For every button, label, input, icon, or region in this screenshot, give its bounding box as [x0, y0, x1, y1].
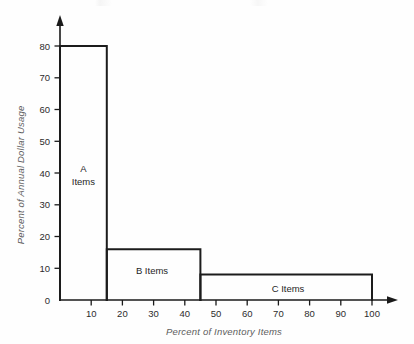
y-axis-tick-labels: 80 70 60 50 40 30 20 10 0 — [39, 41, 50, 306]
step-bars — [60, 46, 372, 300]
abc-inventory-step-chart: 80 70 60 50 40 30 20 10 0 10 20 — [0, 0, 414, 344]
x-tick-label-70: 70 — [273, 308, 284, 319]
x-axis-tick-labels: 10 20 30 40 50 60 70 80 90 100 — [86, 308, 380, 319]
x-axis-title: Percent of Inventory Items — [166, 326, 282, 337]
x-tick-label-100: 100 — [364, 308, 380, 319]
x-axis-ticks — [91, 300, 372, 306]
bar-label-a-items-line2: Items — [72, 176, 95, 187]
bar-label-c-items: C Items — [272, 283, 305, 294]
x-tick-label-90: 90 — [336, 308, 347, 319]
x-tick-label-60: 60 — [242, 308, 253, 319]
x-tick-label-80: 80 — [304, 308, 315, 319]
y-tick-label-50: 50 — [39, 136, 50, 147]
y-tick-label-0: 0 — [45, 295, 50, 306]
x-axis — [60, 296, 398, 303]
y-tick-label-80: 80 — [39, 41, 50, 52]
bar-label-b-items: B Items — [136, 265, 168, 276]
x-tick-label-20: 20 — [117, 308, 128, 319]
y-tick-label-20: 20 — [39, 231, 50, 242]
y-tick-label-30: 30 — [39, 199, 50, 210]
x-axis-arrow-icon — [387, 296, 398, 303]
y-tick-label-60: 60 — [39, 104, 50, 115]
y-axis-arrow-icon — [56, 15, 63, 26]
x-tick-label-50: 50 — [211, 308, 222, 319]
y-tick-label-40: 40 — [39, 168, 50, 179]
y-tick-label-10: 10 — [39, 263, 50, 274]
y-axis-title: Percent of Annual Dollar Usage — [15, 106, 26, 245]
y-tick-label-70: 70 — [39, 72, 50, 83]
x-tick-label-10: 10 — [86, 308, 97, 319]
chart-figure: 80 70 60 50 40 30 20 10 0 10 20 — [0, 0, 414, 344]
x-tick-label-30: 30 — [148, 308, 159, 319]
x-tick-label-40: 40 — [180, 308, 191, 319]
scan-artifact — [0, 0, 414, 6]
bar-label-a-items-line1: A — [80, 163, 87, 174]
